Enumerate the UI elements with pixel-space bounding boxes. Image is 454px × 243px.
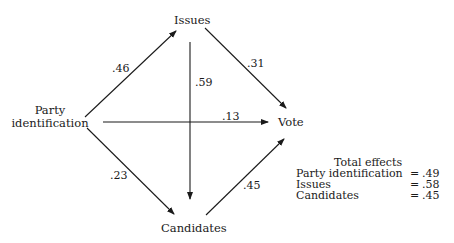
- arrow-issues-to-vote: [205, 28, 286, 108]
- equals-sign: =: [410, 190, 422, 201]
- coef-issues-candidates: .59: [195, 77, 213, 89]
- node-candidates: Candidates: [161, 222, 227, 235]
- total-effects-label: Candidates: [296, 190, 410, 201]
- total-effects-value: .45: [422, 190, 440, 201]
- arrow-candidates-to-vote: [206, 139, 284, 215]
- total-effects-row: Candidates = .45: [296, 190, 440, 201]
- node-party-line2: identification: [8, 117, 92, 130]
- node-vote-label: Vote: [278, 115, 304, 129]
- coef-candidates-vote: .45: [243, 180, 261, 192]
- coef-party-issues: .46: [112, 63, 130, 75]
- node-vote: Vote: [278, 116, 304, 129]
- coef-issues-vote: .31: [247, 58, 265, 70]
- node-issues-label: Issues: [174, 13, 210, 27]
- node-candidates-label: Candidates: [161, 221, 227, 235]
- node-party-identification: Party identification: [8, 104, 92, 130]
- total-effects-table: Total effects Party identification = .49…: [296, 157, 440, 201]
- node-issues: Issues: [174, 14, 210, 27]
- coef-party-vote: .13: [222, 111, 240, 123]
- arrow-party-to-candidates: [87, 128, 174, 214]
- coef-party-candidates: .23: [110, 170, 128, 182]
- arrow-party-to-issues: [85, 31, 176, 117]
